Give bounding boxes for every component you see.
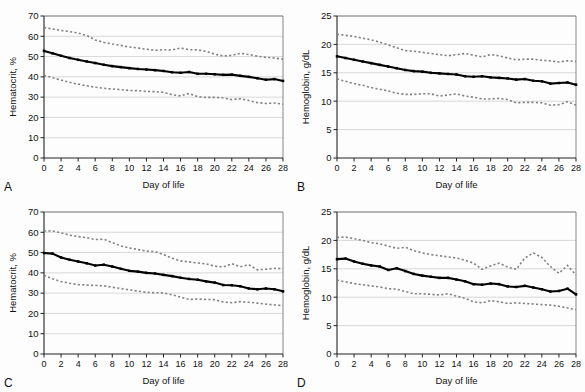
svg-text:22: 22: [520, 359, 530, 369]
svg-text:10: 10: [321, 292, 332, 303]
svg-text:28: 28: [571, 359, 581, 369]
svg-text:10: 10: [28, 132, 39, 143]
svg-text:0: 0: [334, 359, 339, 369]
svg-text:70: 70: [28, 206, 39, 217]
panel-d-plot: 05101520250246810121416182022242628Hemog…: [293, 196, 585, 392]
panel-b: 05101520250246810121416182022242628Hemog…: [293, 0, 585, 196]
svg-text:2: 2: [59, 359, 64, 369]
svg-text:20: 20: [210, 163, 220, 173]
svg-text:25: 25: [321, 206, 332, 217]
svg-text:8: 8: [403, 163, 408, 173]
svg-text:26: 26: [261, 359, 271, 369]
svg-text:40: 40: [28, 267, 39, 278]
panel-b-letter: B: [297, 180, 305, 194]
svg-text:40: 40: [28, 71, 39, 82]
svg-text:16: 16: [176, 163, 186, 173]
panel-a-plot: 0102030405060700246810121416182022242628…: [0, 0, 292, 196]
svg-text:2: 2: [352, 163, 357, 173]
svg-text:24: 24: [244, 163, 254, 173]
svg-text:20: 20: [210, 359, 220, 369]
svg-text:26: 26: [554, 359, 564, 369]
svg-text:16: 16: [469, 163, 479, 173]
svg-text:10: 10: [417, 359, 427, 369]
svg-text:6: 6: [93, 359, 98, 369]
panel-c-letter: C: [4, 376, 13, 390]
svg-text:10: 10: [321, 96, 332, 107]
y-axis-title: Hematocrit, %: [7, 253, 18, 313]
svg-text:26: 26: [554, 163, 564, 173]
svg-text:16: 16: [469, 359, 479, 369]
svg-text:28: 28: [571, 163, 581, 173]
svg-text:16: 16: [176, 359, 186, 369]
svg-text:10: 10: [124, 359, 134, 369]
y-axis-title: Hemoglobin, g/dL: [300, 50, 311, 124]
svg-text:18: 18: [486, 163, 496, 173]
panel-d: 05101520250246810121416182022242628Hemog…: [293, 196, 585, 392]
svg-text:60: 60: [28, 227, 39, 238]
svg-text:20: 20: [503, 163, 513, 173]
panel-c: 0102030405060700246810121416182022242628…: [0, 196, 292, 392]
y-axis-title: Hemoglobin, g/dL: [300, 246, 311, 320]
x-axis-title: Day of life: [142, 375, 184, 386]
svg-text:18: 18: [193, 359, 203, 369]
svg-text:25: 25: [321, 10, 332, 21]
svg-text:6: 6: [386, 359, 391, 369]
x-axis-title: Day of life: [435, 179, 477, 190]
svg-text:26: 26: [261, 163, 271, 173]
panel-d-letter: D: [297, 376, 306, 390]
svg-text:12: 12: [434, 163, 444, 173]
svg-text:14: 14: [158, 359, 168, 369]
svg-text:8: 8: [110, 163, 115, 173]
svg-text:28: 28: [278, 359, 288, 369]
svg-text:70: 70: [28, 10, 39, 21]
svg-text:50: 50: [28, 247, 39, 258]
svg-text:22: 22: [520, 163, 530, 173]
svg-text:30: 30: [28, 91, 39, 102]
svg-text:24: 24: [244, 359, 254, 369]
svg-text:10: 10: [28, 328, 39, 339]
svg-text:28: 28: [278, 163, 288, 173]
svg-text:5: 5: [326, 320, 331, 331]
svg-text:0: 0: [41, 359, 46, 369]
svg-text:18: 18: [193, 163, 203, 173]
svg-text:0: 0: [326, 348, 331, 359]
svg-text:60: 60: [28, 31, 39, 42]
svg-text:22: 22: [227, 163, 237, 173]
svg-text:14: 14: [451, 359, 461, 369]
svg-text:0: 0: [326, 152, 331, 163]
svg-text:0: 0: [33, 152, 38, 163]
svg-text:0: 0: [334, 163, 339, 173]
x-axis-title: Day of life: [435, 375, 477, 386]
panel-a-letter: A: [4, 180, 12, 194]
figure-container: 0102030405060700246810121416182022242628…: [0, 0, 585, 392]
svg-text:20: 20: [28, 112, 39, 123]
svg-text:24: 24: [537, 163, 547, 173]
svg-text:12: 12: [434, 359, 444, 369]
svg-text:6: 6: [93, 163, 98, 173]
svg-text:14: 14: [158, 163, 168, 173]
svg-text:6: 6: [386, 163, 391, 173]
svg-text:2: 2: [352, 359, 357, 369]
svg-text:20: 20: [28, 308, 39, 319]
svg-text:0: 0: [33, 348, 38, 359]
svg-text:10: 10: [417, 163, 427, 173]
svg-text:2: 2: [59, 163, 64, 173]
svg-text:12: 12: [141, 359, 151, 369]
svg-text:20: 20: [321, 39, 332, 50]
svg-text:20: 20: [503, 359, 513, 369]
svg-text:0: 0: [41, 163, 46, 173]
panel-a: 0102030405060700246810121416182022242628…: [0, 0, 292, 196]
svg-text:14: 14: [451, 163, 461, 173]
svg-text:15: 15: [321, 67, 332, 78]
y-axis-title: Hematocrit, %: [7, 57, 18, 117]
svg-text:50: 50: [28, 51, 39, 62]
svg-text:4: 4: [76, 163, 81, 173]
panel-b-plot: 05101520250246810121416182022242628Hemog…: [293, 0, 585, 196]
svg-text:15: 15: [321, 263, 332, 274]
svg-text:22: 22: [227, 359, 237, 369]
svg-text:4: 4: [369, 163, 374, 173]
panel-c-plot: 0102030405060700246810121416182022242628…: [0, 196, 292, 392]
svg-text:20: 20: [321, 235, 332, 246]
svg-text:10: 10: [124, 163, 134, 173]
svg-text:18: 18: [486, 359, 496, 369]
